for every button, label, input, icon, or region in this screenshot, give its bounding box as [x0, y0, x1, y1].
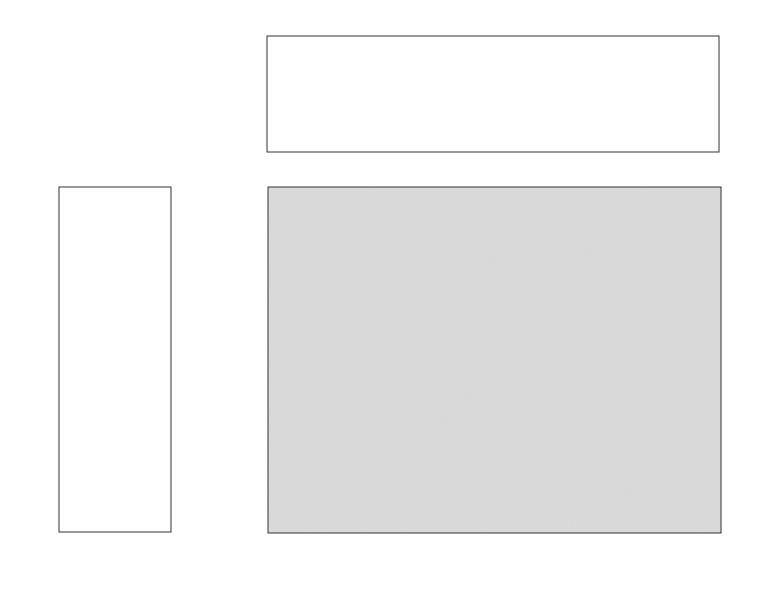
left-plot-frame: [59, 187, 171, 532]
figure: [0, 0, 761, 607]
top-plot-frame: [267, 36, 719, 152]
momentum-marginal-plot: [0, 0, 171, 532]
wigner-plot: [268, 187, 721, 533]
top-signal-plot: [267, 36, 719, 152]
